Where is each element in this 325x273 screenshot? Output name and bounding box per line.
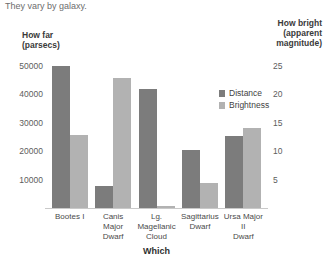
legend-item[interactable]: Distance <box>219 88 269 99</box>
category-label: Lg. MagellanicCloud <box>135 212 178 242</box>
left-axis-title-line2: (parsecs) <box>22 40 112 50</box>
right-tick-0: 5 <box>273 176 278 185</box>
category-label-line2: Dwarf <box>223 232 264 242</box>
bar-group <box>135 52 178 209</box>
bar-brightness[interactable] <box>70 135 88 209</box>
axis-baseline <box>45 208 268 209</box>
right-axis-title: How bright (apparent magnitude) <box>227 18 322 48</box>
category-label: SagittariusDwarf <box>178 212 221 242</box>
bar-distance[interactable] <box>225 136 243 209</box>
category-label-line1: Ursa Major II <box>223 212 264 232</box>
right-axis-title-line2: (apparent <box>227 28 322 38</box>
bar-distance[interactable] <box>95 186 113 209</box>
category-label: Canis MajorDwarf <box>91 212 134 242</box>
legend-label: Brightness <box>229 100 269 111</box>
right-tick-2: 15 <box>273 119 282 128</box>
left-tick-3: 40000 <box>19 90 43 99</box>
category-label-line1: Canis Major <box>92 212 133 232</box>
chart-header: DISTANCE AND BRIGHTNESS They vary by gal… <box>5 0 320 12</box>
plot-area: 1000020000300004000050000 510152025 <box>48 52 265 209</box>
category-label: Ursa Major IIDwarf <box>222 212 265 242</box>
legend-swatch-icon <box>219 90 225 97</box>
bar-groups <box>48 52 265 209</box>
chart-legend: DistanceBrightness <box>219 88 269 112</box>
category-label-line2: Dwarf <box>179 222 220 232</box>
x-axis-title: Which <box>48 246 265 256</box>
category-label: Bootes I <box>48 212 91 242</box>
left-tick-4: 50000 <box>19 62 43 71</box>
category-label-line2: Dwarf <box>92 232 133 242</box>
bar-group <box>178 52 221 209</box>
bar-group <box>48 52 91 209</box>
bar-distance[interactable] <box>139 89 157 209</box>
category-label-line1: Sagittarius <box>179 212 220 222</box>
right-tick-4: 25 <box>273 62 282 71</box>
left-tick-0: 10000 <box>19 176 43 185</box>
bar-group <box>91 52 134 209</box>
chart-subtitle: They vary by galaxy. <box>5 1 320 12</box>
right-axis-title-line3: magnitude) <box>227 38 322 48</box>
bar-distance[interactable] <box>182 150 200 209</box>
category-label-line1: Lg. Magellanic <box>136 212 177 232</box>
legend-swatch-icon <box>219 102 225 109</box>
bar-group <box>222 52 265 209</box>
left-axis-title: How far (parsecs) <box>22 30 112 50</box>
right-tick-1: 10 <box>273 147 282 156</box>
bar-distance[interactable] <box>52 66 70 209</box>
category-label-line1: Bootes I <box>49 212 90 222</box>
legend-item[interactable]: Brightness <box>219 100 269 111</box>
right-axis-title-line1: How bright <box>227 18 322 28</box>
left-axis-title-line1: How far <box>22 30 112 40</box>
right-tick-3: 20 <box>273 90 282 99</box>
legend-label: Distance <box>229 88 262 99</box>
bar-brightness[interactable] <box>200 183 218 209</box>
left-tick-2: 30000 <box>19 119 43 128</box>
category-label-line2: Cloud <box>136 232 177 242</box>
bar-brightness[interactable] <box>243 128 261 209</box>
category-axis-labels: Bootes ICanis MajorDwarfLg. MagellanicCl… <box>48 212 265 242</box>
left-tick-1: 20000 <box>19 147 43 156</box>
bar-brightness[interactable] <box>113 78 131 209</box>
